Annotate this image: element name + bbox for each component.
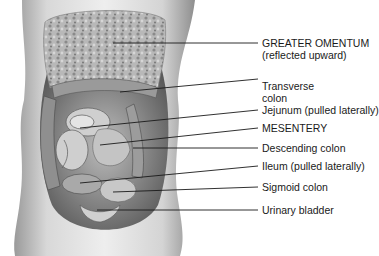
sigmoid-colon <box>100 178 136 202</box>
label-greater-omentum-line2: (reflected upward) <box>262 49 369 61</box>
label-sigmoid-colon: Sigmoid colon <box>262 181 328 193</box>
label-transverse-colon-line2: colon <box>262 92 314 104</box>
label-mesentery: MESENTERY <box>262 122 327 134</box>
label-transverse-colon-line1: Transverse <box>262 80 314 92</box>
label-urinary-bladder: Urinary bladder <box>262 204 334 216</box>
label-greater-omentum: GREATER OMENTUM (reflected upward) <box>262 37 369 61</box>
greater-omentum <box>44 10 166 88</box>
label-transverse-colon: Transverse colon <box>262 80 314 104</box>
ileum <box>62 174 102 194</box>
label-jejunum: Jejunum (pulled laterally) <box>262 104 379 116</box>
label-greater-omentum-line1: GREATER OMENTUM <box>262 37 369 49</box>
label-ileum: Ileum (pulled laterally) <box>262 160 365 172</box>
label-descending-colon: Descending colon <box>262 142 345 154</box>
